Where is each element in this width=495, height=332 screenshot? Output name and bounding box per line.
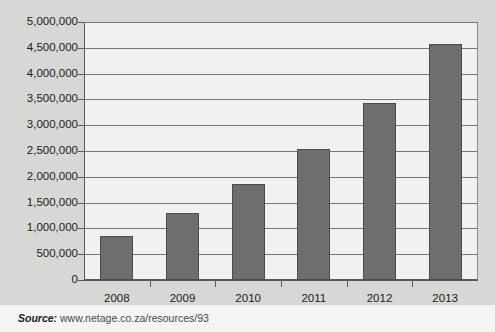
y-axis-tick-label: 5,000,000 [2,16,78,28]
x-axis-tick [150,281,151,287]
bar-group [84,22,478,280]
y-axis-tick-label: 1,500,000 [2,197,78,209]
y-axis-label-group: 0500,0001,000,0001,500,0002,000,0002,500… [0,0,78,332]
y-axis-tick [78,280,84,281]
bar [166,213,199,280]
bar [429,44,462,280]
bar [100,236,133,280]
x-axis-tick-label: 2011 [284,292,344,304]
x-axis-tick-label: 2009 [153,292,213,304]
bar-chart-figure: 0500,0001,000,0001,500,0002,000,0002,500… [0,0,495,332]
x-axis-tick-label: 2012 [350,292,410,304]
x-axis-tick-label: 2010 [218,292,278,304]
source-label: Source: [18,312,57,324]
x-axis-tick [412,281,413,287]
x-axis-tick-label: 2013 [415,292,475,304]
x-axis-tick [215,281,216,287]
y-axis-tick-label: 1,000,000 [2,223,78,235]
source-url: www.netage.co.za/resources/93 [60,312,209,324]
y-axis-tick-label: 2,000,000 [2,171,78,183]
y-axis-tick-label: 0 [2,274,78,286]
y-axis-tick-label: 500,000 [2,248,78,260]
source-note: Source: www.netage.co.za/resources/93 [18,312,209,324]
y-axis-tick-label: 4,500,000 [2,42,78,54]
x-axis-tick [347,281,348,287]
x-axis-tick [281,281,282,287]
y-axis-tick-label: 3,500,000 [2,94,78,106]
bar [363,103,396,280]
x-axis-tick-label: 2008 [87,292,147,304]
bar [297,149,330,280]
bar [232,184,265,280]
y-axis-tick-label: 3,000,000 [2,119,78,131]
y-axis-tick-label: 2,500,000 [2,145,78,157]
y-axis-tick-label: 4,000,000 [2,68,78,80]
